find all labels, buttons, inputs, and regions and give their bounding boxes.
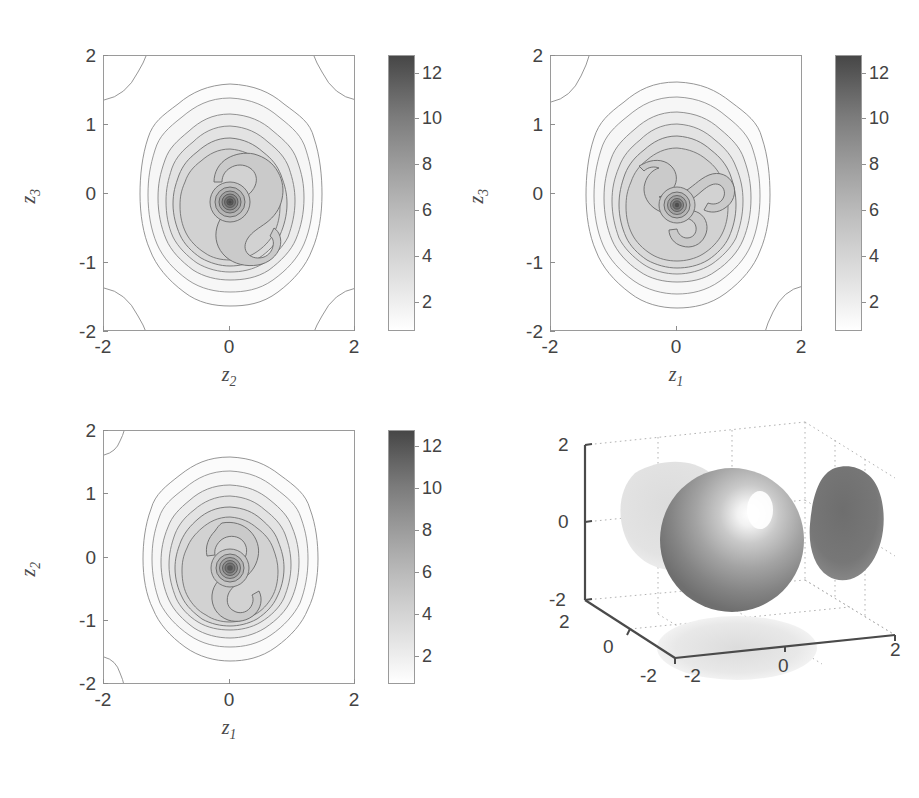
x-axis-label-base: z: [669, 363, 677, 385]
xtick-label: 0: [209, 690, 249, 709]
tickmark-y: [550, 193, 555, 194]
tickmark-y: [103, 55, 108, 56]
colorbar-tickmark: [415, 488, 419, 489]
tickmark-y: [550, 55, 555, 56]
left-axis-tick-far: -2: [640, 666, 657, 685]
tickmark-y: [550, 124, 555, 125]
colorbar-tick-label: 10: [422, 479, 442, 497]
tickmark-x: [354, 679, 355, 684]
isosurface-sphere: [660, 468, 804, 612]
left-axis-tick-mid: 0: [603, 637, 614, 656]
y-axis-label-sub: 2: [28, 562, 43, 569]
colorbar-tickmark: [415, 118, 419, 119]
y-axis-label-base: z: [17, 569, 39, 577]
colorbar-tickmark: [862, 210, 866, 211]
tickmark-y: [103, 193, 108, 194]
tickmark-y: [103, 331, 108, 332]
tickmark-x: [354, 326, 355, 331]
tickmark-y: [103, 430, 108, 431]
colorbar-tick-label: 4: [422, 605, 432, 623]
ytick-label: 1: [58, 115, 96, 134]
tickmark-x: [103, 326, 104, 331]
x-axis-label: z2: [209, 364, 249, 389]
ytick-label: 2: [58, 421, 96, 440]
y-axis-label-base: z: [17, 196, 39, 204]
y-axis-label-sub: 3: [476, 189, 491, 196]
colorbar-tickmark: [862, 73, 866, 74]
tickmark-x: [676, 326, 677, 331]
panel-top-right: 2 1 0 -1 -2 -2 0 2 z3 z1 12 10 8 6 4 2: [460, 0, 919, 400]
colorbar: [388, 430, 415, 684]
tickmark-y: [103, 493, 108, 494]
left-axis-tick-near: 2: [559, 612, 570, 631]
colorbar-tick-label: 6: [422, 201, 432, 219]
tickmark-x: [550, 326, 551, 331]
three-d-isosurface-art: [460, 400, 919, 798]
panel-bottom-right-3d: 2 0 -2 2 0 -2 -2 0 2: [460, 400, 919, 798]
tickmark-y: [550, 331, 555, 332]
colorbar-tick-label: 2: [869, 293, 879, 311]
right-axis-tick-mid: 0: [778, 656, 789, 675]
colorbar-tickmark: [415, 572, 419, 573]
xtick-label: -2: [83, 337, 123, 356]
colorbar-tick-label: 12: [869, 64, 889, 82]
xtick-label: 2: [781, 337, 821, 356]
colorbar: [835, 55, 862, 331]
xtick-label: 0: [656, 337, 696, 356]
xtick-label: 2: [334, 337, 374, 356]
tickmark-y: [550, 262, 555, 263]
y-axis-label: z3: [466, 176, 491, 216]
ytick-label: -1: [58, 253, 96, 272]
colorbar-tickmark: [415, 256, 419, 257]
x-axis-label-sub: 1: [230, 727, 237, 742]
colorbar-tickmark: [862, 302, 866, 303]
bottom-left-contour-art: [104, 431, 355, 684]
xtick-label: 0: [209, 337, 249, 356]
colorbar-tickmark: [862, 256, 866, 257]
colorbar-tick-label: 8: [422, 155, 432, 173]
colorbar-tick-label: 12: [422, 437, 442, 455]
colorbar-tickmark: [415, 614, 419, 615]
colorbar-tickmark: [862, 164, 866, 165]
colorbar-tickmark: [415, 656, 419, 657]
colorbar-tick-label: 10: [422, 109, 442, 127]
ytick-label: 0: [505, 184, 543, 203]
colorbar: [388, 55, 415, 331]
colorbar-tick-label: 4: [869, 247, 879, 265]
bottom-left-plot-area: [103, 430, 355, 684]
colorbar-tickmark: [415, 164, 419, 165]
y-axis-label-base: z: [465, 196, 487, 204]
y-axis-label-sub: 3: [28, 189, 43, 196]
tickmark-y: [103, 620, 108, 621]
colorbar-tickmark: [415, 446, 419, 447]
specular-highlight: [747, 491, 773, 529]
x-axis-label: z1: [209, 717, 249, 742]
colorbar-tickmark: [862, 118, 866, 119]
xtick-label: -2: [83, 690, 123, 709]
tickmark-y: [103, 262, 108, 263]
ztick-label-top: 2: [558, 435, 569, 454]
colorbar-tick-label: 4: [422, 247, 432, 265]
colorbar-tickmark: [415, 302, 419, 303]
ytick-label: -1: [505, 253, 543, 272]
xtick-label: 2: [334, 690, 374, 709]
x-axis-label-base: z: [222, 363, 230, 385]
colorbar-tick-label: 2: [422, 293, 432, 311]
tickmark-y: [103, 557, 108, 558]
colorbar-tickmark: [415, 530, 419, 531]
colorbar-tick-label: 10: [869, 109, 889, 127]
projection-floor: [657, 616, 817, 680]
top-right-plot-area: [550, 55, 802, 331]
tickmark-x: [103, 679, 104, 684]
colorbar-tick-label: 6: [422, 563, 432, 581]
top-right-contour-art: [551, 56, 802, 331]
tickmark-y: [103, 124, 108, 125]
y-axis-label: z3: [18, 176, 43, 216]
tickmark-x: [229, 326, 230, 331]
tickmark-x: [801, 326, 802, 331]
colorbar-tick-label: 8: [869, 155, 879, 173]
x-axis-label-sub: 1: [677, 374, 684, 389]
right-axis-tick-near: 2: [890, 640, 901, 659]
tickmark-x: [229, 679, 230, 684]
x-axis-label-base: z: [222, 716, 230, 738]
